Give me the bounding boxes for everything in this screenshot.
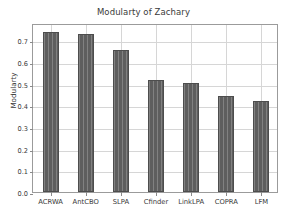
bar-antcbo (78, 34, 94, 192)
y-tick-mark (30, 42, 34, 43)
x-tick-mark (261, 192, 262, 196)
y-tick-mark (30, 86, 34, 87)
x-tick-mark (191, 192, 192, 196)
y-tick-label: 0.6 (18, 60, 29, 68)
x-tick-mark (86, 192, 87, 196)
y-tick-label: 0.0 (18, 190, 29, 198)
y-tick-label: 0.7 (18, 38, 29, 46)
x-tick-label-acrwa: ACRWA (38, 198, 63, 206)
chart-title: Modularty of Zachary (0, 7, 287, 17)
gridline-horizontal (33, 42, 277, 43)
plot-area: 0.00.10.20.30.40.50.60.7 ACRWAAntCBOSLPA… (32, 24, 278, 193)
gridline-horizontal (33, 64, 277, 65)
x-tick-label-slpa: SLPA (113, 198, 129, 206)
y-axis-label: Modularty (9, 56, 18, 126)
y-tick-label: 0.4 (18, 103, 29, 111)
y-tick-mark (30, 172, 34, 173)
y-tick-label: 0.2 (18, 147, 29, 155)
y-tick-label: 0.1 (18, 168, 29, 176)
x-tick-label-copra: COPRA (215, 198, 238, 206)
x-tick-label-lfm: LFM (255, 198, 269, 206)
x-tick-label-cfinder: Cfinder (144, 198, 169, 206)
y-tick-mark (30, 151, 34, 152)
y-tick-label: 0.3 (18, 125, 29, 133)
x-tick-label-antcbo: AntCBO (73, 198, 99, 206)
bar-acrwa (43, 32, 59, 192)
x-tick-mark (226, 192, 227, 196)
x-tick-label-linklpa: LinkLPA (178, 198, 204, 206)
x-tick-mark (121, 192, 122, 196)
y-tick-mark (30, 129, 34, 130)
y-tick-mark (30, 107, 34, 108)
bar-copra (218, 96, 234, 192)
chart-figure: Modularty of Zachary Modularty 0.00.10.2… (0, 0, 287, 215)
bar-cfinder (148, 80, 164, 192)
y-tick-mark (30, 194, 34, 195)
bar-linklpa (183, 83, 199, 192)
x-tick-mark (51, 192, 52, 196)
y-tick-label: 0.5 (18, 82, 29, 90)
x-tick-mark (156, 192, 157, 196)
bar-slpa (113, 50, 129, 192)
y-tick-mark (30, 64, 34, 65)
bar-lfm (253, 101, 269, 192)
